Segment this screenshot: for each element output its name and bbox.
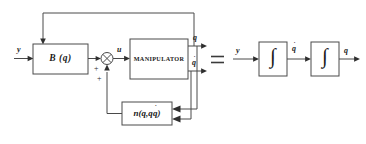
signal-label-q-output: q [193,34,197,42]
dot-accent: ˙ [193,56,195,63]
sum-sign-bottom: + [97,75,102,83]
q-dot-glyph: q˙ [153,109,158,118]
arrow-into-n-block-upper [172,106,181,113]
signal-label-input-y: y [17,46,21,54]
wire-n-to-sum [104,65,122,114]
summing-junction [101,53,113,65]
signal-label-u: u [117,46,121,54]
signal-label-right-output-q: q [344,47,348,55]
dot-accent: ˙ [293,42,295,49]
block-diagram-canvas: B (q) MANIPULATOR n(q,qq˙) ∫ ∫ y u + + q… [0,0,366,144]
wire-sum-to-manipulator [113,56,130,62]
diagram-svg [0,0,366,144]
arrow-into-sum-left [96,56,101,61]
block-b-q-label: B (q) [33,54,88,64]
integrator-2-symbol: ∫ [311,46,339,67]
block-n-q-qdot-label: n(q,qq˙) [122,109,172,118]
wire-right-input-y [233,56,259,62]
wire-between-integrators [287,56,311,62]
arrow-output-qdot [201,68,207,74]
arrow-output-q [201,43,207,49]
block-manipulator-label: MANIPULATOR [130,56,188,62]
sum-sign-left: + [94,65,99,73]
arrow-into-n-block-lower [172,116,181,123]
arrow-into-sum-bottom [104,65,110,71]
integrator-1-symbol: ∫ [259,46,287,67]
n-block-label-base: n(q,q [134,108,153,118]
signal-label-qdot-output: q˙ [192,59,196,67]
wire-b-to-sum [88,56,101,61]
dot-accent: ˙ [154,105,156,112]
n-block-label-close: ) [157,108,160,118]
equivalence-sign [211,57,224,63]
arrow-output-right-q [354,56,360,62]
signal-label-right-input-y: y [236,47,240,55]
wire-right-output-q [339,56,360,62]
signal-label-right-qdot: q˙ [292,45,296,53]
input-wire-y [14,56,34,62]
qdot-glyph-manipulator: q˙ [192,59,196,67]
qdot-glyph-right: q˙ [292,45,296,53]
